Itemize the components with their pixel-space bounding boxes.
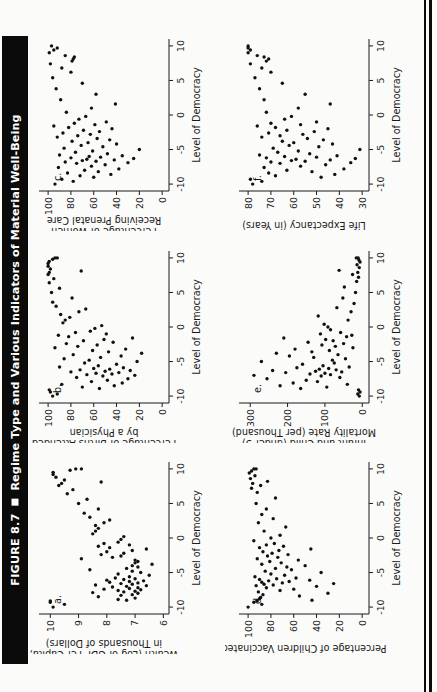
data-point (273, 126, 276, 129)
data-point (77, 118, 80, 121)
data-point (330, 358, 333, 361)
data-point (91, 591, 94, 594)
data-point (284, 371, 287, 374)
data-point (88, 516, 91, 519)
data-point (84, 307, 87, 310)
y-tick-label: 200 (281, 409, 292, 427)
data-point (54, 304, 57, 307)
data-point (130, 564, 133, 567)
data-point (130, 569, 133, 572)
data-point (54, 476, 57, 479)
x-tick-label: 10 (375, 40, 386, 52)
data-point (344, 335, 347, 338)
data-point (93, 524, 96, 527)
data-point (279, 561, 282, 564)
x-tick-label: -5 (175, 357, 186, 366)
data-point (353, 157, 356, 160)
data-point (63, 54, 66, 57)
data-point (319, 374, 322, 377)
y-axis-title-line: Percentage of Children Vaccinated (225, 643, 386, 654)
data-point (96, 545, 99, 548)
data-point (260, 67, 263, 70)
data-point (122, 578, 125, 581)
y-tick-label: 0 (356, 620, 367, 626)
data-point (135, 360, 138, 363)
x-tick-label: -10 (375, 388, 386, 403)
data-point (265, 377, 268, 380)
data-point (119, 354, 122, 357)
x-tick-label: 0 (175, 324, 186, 330)
data-point (294, 158, 297, 161)
data-point (122, 535, 125, 538)
scatter-panel-f: f.304050607080-10-50510Level of Democrac… (225, 30, 415, 231)
data-point (347, 365, 350, 368)
data-point (112, 384, 115, 387)
data-point (126, 161, 129, 164)
data-point (292, 587, 295, 590)
data-point (72, 122, 75, 125)
data-point (63, 161, 66, 164)
data-point (60, 67, 63, 70)
data-point (80, 159, 83, 162)
data-point (144, 584, 147, 587)
data-point (101, 145, 104, 148)
data-point (50, 300, 53, 303)
data-point (93, 326, 96, 329)
scatter-panel-e: e.0100200300-10-50510Level of DemocracyI… (225, 241, 415, 442)
data-point (278, 589, 281, 592)
x-tick-label: -10 (175, 599, 186, 614)
data-point (120, 381, 123, 384)
y-tick-label: 100 (42, 197, 53, 215)
y-tick-label: 0 (356, 409, 367, 415)
data-point (345, 382, 348, 385)
data-point (349, 310, 352, 313)
data-point (116, 598, 119, 601)
data-point (136, 586, 139, 589)
data-point (306, 340, 309, 343)
data-point (52, 277, 55, 280)
y-tick-label: 60 (288, 197, 299, 209)
data-point (264, 586, 267, 589)
x-tick-label: -5 (175, 145, 186, 154)
y-tick-label: 80 (265, 620, 276, 632)
data-point (272, 542, 275, 545)
data-point (110, 372, 113, 375)
data-point (278, 534, 281, 537)
y-axis-title-line: Life Expectancy (in Years) (242, 220, 366, 231)
data-point (124, 585, 127, 588)
data-point (253, 76, 256, 79)
data-point (246, 45, 249, 48)
data-point (264, 156, 267, 159)
data-point (246, 51, 249, 54)
data-point (325, 385, 328, 388)
scatter-panel-a: a.678910-10-50510Level of DemocracyWealt… (25, 453, 215, 654)
data-point (343, 357, 346, 360)
data-point (51, 471, 54, 474)
data-point (62, 147, 65, 150)
data-point (119, 554, 122, 557)
panel-letter: a. (52, 595, 63, 604)
data-point (76, 502, 79, 505)
scatter-panel-b: b.020406080100-10-50510Level of Democrac… (25, 241, 215, 442)
data-point (308, 578, 311, 581)
data-point (90, 150, 93, 153)
y-tick-label: 7 (129, 620, 140, 626)
data-point (289, 159, 292, 162)
data-point (71, 488, 74, 491)
data-point (317, 145, 320, 148)
data-point (107, 518, 110, 521)
data-point (110, 585, 113, 588)
data-point (264, 60, 267, 63)
data-point (71, 180, 74, 183)
data-point (316, 314, 319, 317)
data-point (333, 173, 336, 176)
data-point (273, 496, 276, 499)
data-point (61, 132, 64, 135)
data-point (92, 176, 95, 179)
data-point (252, 373, 255, 376)
data-point (93, 583, 96, 586)
data-point (117, 371, 120, 374)
y-axis-title: Infant and Child (under 5)Mortality Rate… (231, 426, 375, 443)
data-point (108, 367, 111, 370)
y-tick-label: 0 (156, 197, 167, 203)
